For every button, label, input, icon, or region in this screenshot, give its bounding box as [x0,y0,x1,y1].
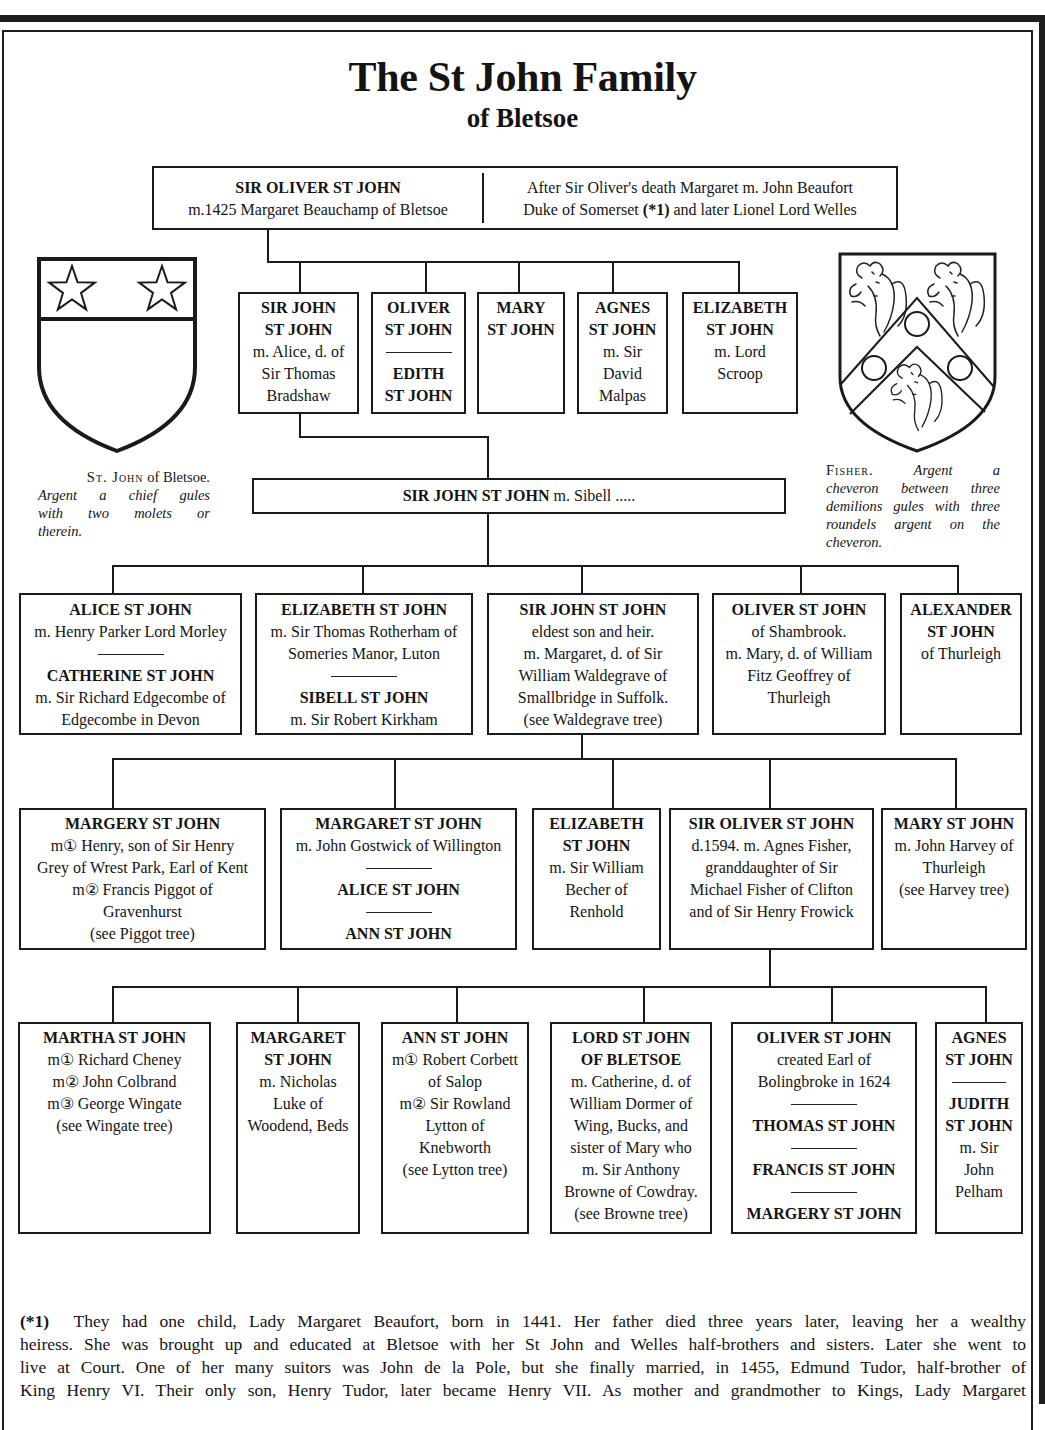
blazon-line: demilions gules with three [826,497,1000,515]
person-detail: sister of Mary who [552,1137,710,1159]
person-detail: Luke of [238,1093,358,1115]
person-detail: m. John Gostwick of Willington [282,835,515,857]
person-detail: d.1594. m. Agnes Fisher, [671,835,872,857]
person-name: ELIZABETH ST JOHN [257,599,471,621]
person-name: SIR JOHN [240,297,357,319]
person-name: SIR OLIVER ST JOHN [671,813,872,835]
blazon-line: roundels argent on the [826,515,1000,533]
person-detail: John [937,1159,1021,1181]
person-name: ALICE ST JOHN [282,879,515,901]
person-detail: m.1425 Margaret Beauchamp of Bletsoe [154,199,482,221]
person-name: LORD ST JOHN [552,1027,710,1049]
person-name: ANN ST JOHN [383,1027,527,1049]
person-name: OLIVER [373,297,464,319]
person-name: ST JOHN [902,621,1020,643]
person-name: MARGARET [238,1027,358,1049]
person-detail: Pelham [937,1181,1021,1203]
root-note: After Sir Oliver's death Margaret m. Joh… [484,177,896,221]
person-name: ST JOHN [238,1049,358,1071]
person-box: MARY ST JOHN m. John Harvey of Thurleigh… [881,808,1027,950]
note-text: Duke of Somerset [523,201,643,218]
person-detail: Wing, Bucks, and [552,1115,710,1137]
person-detail: (see Wingate tree) [20,1115,209,1137]
footnote: (*1) They had one child, Lady Margaret B… [20,1310,1026,1402]
person-detail: granddaughter of Sir [671,857,872,879]
arms-name: Fisher. [826,462,874,478]
sibling-divider [257,665,471,687]
person-detail: (see Waldegrave tree) [489,709,697,731]
note-line: After Sir Oliver's death Margaret m. Joh… [484,177,896,199]
person-detail: Michael Fisher of Clifton [671,879,872,901]
person-detail: m③ George Wingate [20,1093,209,1115]
sibling-divider [937,1071,1021,1093]
person-detail: m. Sir Robert Kirkham [257,709,471,731]
person-box: LORD ST JOHN OF BLETSOE m. Catherine, d.… [550,1022,712,1234]
person-detail: m. Catherine, d. of [552,1071,710,1093]
person-box: ALICE ST JOHN m. Henry Parker Lord Morle… [19,593,242,735]
footnote-ref: (*1) [20,1311,49,1331]
person-detail: m. Sir Richard Edgecombe of [21,687,240,709]
person-detail: m. Nicholas [238,1071,358,1093]
person-detail: Bradshaw [240,385,357,407]
person-name: ST JOHN [479,319,563,341]
person-box: MARTHA ST JOHN m① Richard Cheney m② John… [18,1022,211,1234]
person-detail: and of Sir Henry Frowick [671,901,872,923]
person-detail: Becher of [534,879,659,901]
person-box: ELIZABETH ST JOHN m. Lord Scroop [682,292,798,414]
person-box: AGNES ST JOHN JUDITH ST JOHN m. Sir John… [935,1022,1023,1234]
person-name: CATHERINE ST JOHN [21,665,240,687]
heir-box: SIR JOHN ST JOHN m. Sibell ..... [252,478,786,514]
footnote-text: They had one child, Lady Margaret Beaufo… [49,1311,1026,1331]
person-name: ELIZABETH [684,297,796,319]
person-detail: m. Margaret, d. of Sir [489,643,697,665]
person-detail: m. Henry Parker Lord Morley [21,621,240,643]
person-name: JUDITH [937,1093,1021,1115]
person-name: SIR OLIVER ST JOHN [154,177,482,199]
person-box: ANN ST JOHN m① Robert Corbett of Salop m… [381,1022,529,1234]
person-detail: Thurleigh [883,857,1025,879]
person-box: MARGARET ST JOHN m. Nicholas Luke of Woo… [236,1022,360,1234]
arms-name: St. John [87,469,144,485]
person-detail: Thurleigh [714,687,884,709]
person-name: OLIVER ST JOHN [733,1027,915,1049]
person-box: MARGARET ST JOHN m. John Gostwick of Wil… [280,808,517,950]
person-box: MARY ST JOHN [477,292,565,414]
st-john-shield-icon [37,257,199,454]
blazon-line: cheveron between three [826,479,1000,497]
person-detail: Bolingbroke in 1624 [733,1071,915,1093]
person-detail: m. John Harvey of [883,835,1025,857]
person-box: ELIZABETH ST JOHN m. Sir William Becher … [532,808,661,950]
person-detail: m. Sir William [534,857,659,879]
person-detail: Renhold [534,901,659,923]
person-name: MARTHA ST JOHN [20,1027,209,1049]
blazon-line: therein. [38,522,210,540]
sibling-divider [373,341,464,363]
person-name: AGNES [579,297,666,319]
person-detail: m. Sir [579,341,666,363]
person-box: SIR JOHN ST JOHN m. Alice, d. of Sir Tho… [238,292,359,414]
person-detail: m. Mary, d. of William [714,643,884,665]
sibling-divider [21,643,240,665]
root-box-sir-oliver-st-john: SIR OLIVER ST JOHN m.1425 Margaret Beauc… [152,166,898,230]
person-name: ST JOHN [373,319,464,341]
person-detail: eldest son and heir. [489,621,697,643]
person-detail: m. Sibell ..... [550,487,636,504]
person-name: ST JOHN [684,319,796,341]
blazon-line: Argent a chief gules [38,486,210,504]
person-detail: (see Browne tree) [552,1203,710,1225]
person-name: ST JOHN [579,319,666,341]
person-name: SIR JOHN ST JOHN [403,487,550,504]
person-detail: m. Lord [684,341,796,363]
person-box: ELIZABETH ST JOHN m. Sir Thomas Rotherha… [255,593,473,735]
person-detail: Woodend, Beds [238,1115,358,1137]
person-name: EDITH [373,363,464,385]
person-detail: William Waldegrave of [489,665,697,687]
person-detail: Scroop [684,363,796,385]
person-name: ELIZABETH [534,813,659,835]
person-detail: of Shambrook. [714,621,884,643]
person-detail: m② Francis Piggot of [21,879,264,901]
person-detail: Malpas [579,385,666,407]
person-box: OLIVER ST JOHN EDITH ST JOHN [371,292,466,414]
person-detail: m. Alice, d. of [240,341,357,363]
person-detail: Sir Thomas [240,363,357,385]
